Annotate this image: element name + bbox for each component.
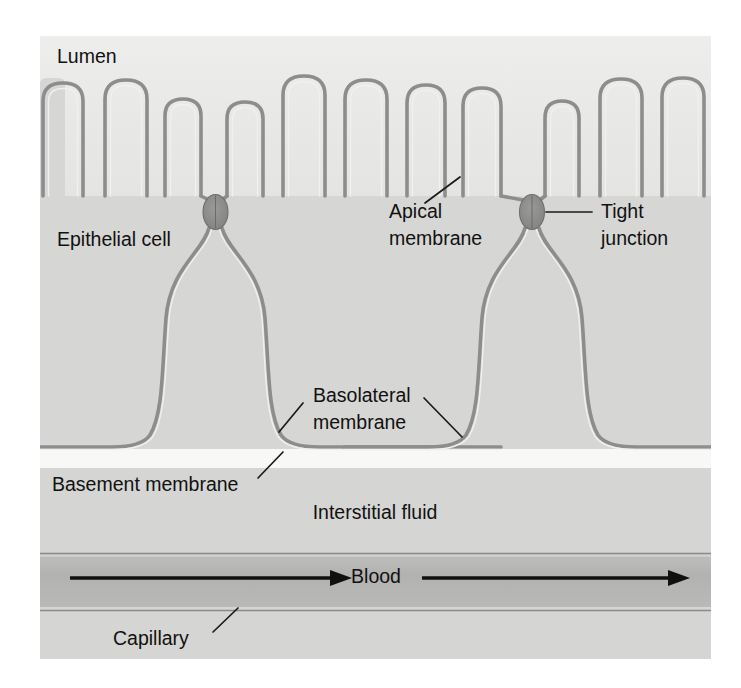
tight-junction-left: [203, 195, 228, 230]
epithelium-diagram: Lumen Epithelial cell Apical membrane Ti…: [0, 0, 741, 688]
label-interstitial-fluid: Interstitial fluid: [313, 501, 438, 523]
label-tight-junction-line1: Tight: [601, 200, 644, 222]
label-basolateral-membrane-line1: Basolateral: [313, 384, 411, 406]
label-lumen: Lumen: [57, 45, 117, 67]
region-lumen: [40, 36, 711, 198]
label-basolateral-membrane-line2: membrane: [313, 411, 406, 433]
label-epithelial-cell: Epithelial cell: [57, 228, 171, 250]
epithelial-transport-figure: Lumen Epithelial cell Apical membrane Ti…: [0, 0, 741, 688]
label-tight-junction-line2: junction: [600, 227, 668, 249]
label-apical-membrane-line1: Apical: [389, 200, 442, 222]
region-basement-membrane: [40, 449, 711, 468]
label-basement-membrane: Basement membrane: [52, 473, 238, 495]
label-capillary: Capillary: [113, 627, 189, 649]
label-blood: Blood: [351, 565, 401, 587]
label-apical-membrane-line2: membrane: [389, 227, 482, 249]
tight-junction-right: [520, 195, 545, 230]
